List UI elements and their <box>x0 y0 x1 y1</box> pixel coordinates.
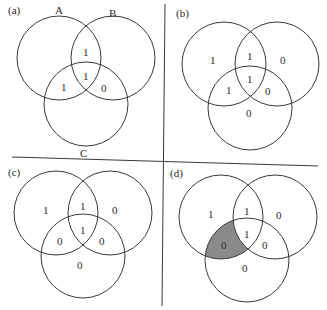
region-bc: 0 <box>99 235 105 247</box>
circle-a <box>17 16 101 100</box>
panel-d: (d) 1 1 0 1 0 0 0 <box>162 155 327 310</box>
panel-label: (d) <box>170 167 183 180</box>
region-c-only: 0 <box>77 259 83 271</box>
region-ac: 1 <box>61 81 67 93</box>
circle-b <box>235 22 319 106</box>
circle-b <box>68 171 152 255</box>
region-abc: 1 <box>247 73 253 85</box>
region-b-only: 0 <box>276 209 282 221</box>
panel-label: (c) <box>8 166 21 179</box>
set-label-a: A <box>55 4 63 16</box>
region-ab: 1 <box>244 205 250 217</box>
vertical-divider <box>162 4 165 306</box>
region-abc: 1 <box>244 228 250 240</box>
panel-label: (b) <box>176 7 189 20</box>
panel-b: (b) 1 1 0 1 1 0 0 <box>176 7 319 150</box>
panel-a: (a) A B C 1 1 1 0 <box>8 4 155 159</box>
region-b-only: 0 <box>112 204 118 216</box>
venn-figure: (a) A B C 1 1 1 0 (b) 1 1 0 1 1 0 0 (c) … <box>0 0 327 310</box>
region-a-only: 1 <box>210 54 216 66</box>
region-ac: 1 <box>226 84 232 96</box>
region-ac: 0 <box>57 235 63 247</box>
set-label-c: C <box>80 147 87 159</box>
set-label-b: B <box>109 7 116 19</box>
region-a-only: 1 <box>43 204 49 216</box>
region-c-only: 0 <box>246 107 252 119</box>
region-b-only: 0 <box>280 54 286 66</box>
region-bc: 0 <box>262 239 268 251</box>
region-ab: 1 <box>80 200 86 212</box>
region-a-only: 1 <box>208 208 214 220</box>
region-ab: 1 <box>83 46 89 58</box>
panel-label: (a) <box>8 4 21 17</box>
region-abc: 1 <box>83 70 89 82</box>
region-ab: 1 <box>247 50 253 62</box>
region-ac: 0 <box>221 239 227 251</box>
circle-a <box>182 22 266 106</box>
circle-a <box>14 171 98 255</box>
region-bc: 0 <box>101 82 107 94</box>
region-bc: 0 <box>265 85 271 97</box>
circle-b <box>71 16 155 100</box>
region-abc: 1 <box>80 224 86 236</box>
region-c-only: 0 <box>242 262 248 274</box>
horizontal-divider <box>12 157 318 166</box>
circle-b <box>233 175 317 259</box>
panel-c: (c) 1 1 0 1 0 0 0 <box>8 166 152 298</box>
